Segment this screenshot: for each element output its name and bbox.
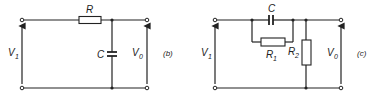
capacitor-c-label: C <box>97 49 105 60</box>
resistor-r1-subscript: 1 <box>273 55 277 62</box>
output-voltage-subscript: 0 <box>334 53 338 60</box>
junction-dot <box>250 18 253 21</box>
resistor-r2 <box>302 40 311 65</box>
output-voltage-subscript: 0 <box>139 53 143 60</box>
terminal-output-top <box>145 18 149 22</box>
circuit-b: R C V 1 V 0 (b) <box>8 4 173 90</box>
terminal-output-bottom <box>145 86 149 90</box>
terminal-input-bottom <box>20 86 24 90</box>
junction-dot <box>110 86 113 89</box>
terminal-input-top <box>213 18 217 22</box>
junction-dot <box>304 18 307 21</box>
junction-dot <box>291 18 294 21</box>
resistor-r-label: R <box>86 4 93 15</box>
figure-tag-b: (b) <box>163 49 173 58</box>
capacitor-c-label: C <box>268 3 276 14</box>
resistor-r <box>79 17 101 24</box>
terminal-output-bottom <box>339 86 343 90</box>
resistor-r1 <box>261 38 285 46</box>
circuit-diagrams: R C V 1 V 0 (b) <box>0 0 375 99</box>
input-voltage-subscript: 1 <box>15 53 19 60</box>
resistor-r2-subscript: 2 <box>294 52 299 59</box>
terminal-output-top <box>339 18 343 22</box>
terminal-input-bottom <box>213 86 217 90</box>
circuit-c: C R 1 R 2 V 1 V 0 (c) <box>201 3 367 90</box>
terminal-input-top <box>20 18 24 22</box>
junction-dot <box>110 18 113 21</box>
figure-tag-c: (c) <box>357 49 367 58</box>
input-voltage-subscript: 1 <box>208 53 212 60</box>
